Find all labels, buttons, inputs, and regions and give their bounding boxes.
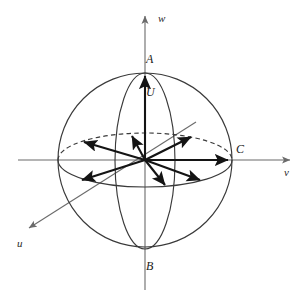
- diagram-canvas: w v u A U B C: [0, 0, 306, 307]
- axis-label-w: w: [158, 12, 166, 24]
- axis-label-u: u: [17, 237, 23, 249]
- sphere-vector-diagram: w v u A U B C: [0, 0, 306, 307]
- label-point-B: B: [146, 259, 154, 273]
- vector-fan-group: [82, 76, 228, 185]
- axis-label-v: v: [284, 166, 289, 178]
- labels-group: w v u A U B C: [17, 12, 289, 273]
- vector-lower-left: [82, 160, 145, 180]
- axis-u-line: [29, 122, 196, 228]
- vector-upper-right: [145, 137, 191, 160]
- label-point-C: C: [236, 142, 245, 156]
- label-vector-U: U: [146, 85, 156, 99]
- label-point-A: A: [145, 52, 154, 66]
